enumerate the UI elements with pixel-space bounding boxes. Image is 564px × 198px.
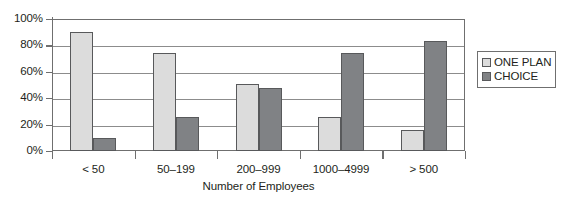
bar-one-plan-4	[401, 130, 424, 151]
bar-one-plan-1	[153, 53, 176, 151]
x-axis-category-label-0: < 50	[52, 163, 135, 175]
y-axis-label-0: 0%	[0, 145, 43, 157]
bar-choice-2	[259, 88, 282, 151]
x-tick-4	[382, 151, 383, 159]
bars-layer	[52, 19, 465, 151]
bar-choice-1	[176, 117, 199, 151]
x-tick-3	[300, 151, 301, 159]
y-axis-label-80: 80%	[0, 39, 43, 51]
bar-choice-0	[93, 138, 116, 151]
legend-item-one-plan[interactable]: ONE PLAN	[482, 55, 551, 69]
x-axis-category-label-3: 1000–4999	[300, 163, 383, 175]
y-axis-label-100: 100%	[0, 13, 43, 25]
legend-swatch-icon-one-plan	[482, 58, 491, 67]
legend: ONE PLAN CHOICE	[477, 51, 556, 88]
bar-choice-3	[341, 53, 364, 151]
legend-swatch-icon-choice	[482, 72, 491, 81]
bar-choice-4	[424, 41, 447, 151]
x-tick-5	[465, 151, 466, 159]
bar-one-plan-2	[236, 84, 259, 151]
bar-one-plan-0	[70, 32, 93, 151]
x-axis-title: Number of Employees	[52, 180, 465, 192]
legend-item-choice[interactable]: CHOICE	[482, 69, 551, 83]
legend-label-choice: CHOICE	[494, 70, 538, 82]
y-axis-label-20: 20%	[0, 119, 43, 131]
y-axis-label-60: 60%	[0, 66, 43, 78]
bar-chart: 100% 80% 60% 40% 20% 0% < 5050–199200–99…	[0, 0, 564, 198]
y-axis-label-40: 40%	[0, 92, 43, 104]
x-axis-category-label-2: 200–999	[217, 163, 300, 175]
x-tick-2	[217, 151, 218, 159]
bar-one-plan-3	[318, 117, 341, 151]
x-axis-category-label-1: 50–199	[135, 163, 218, 175]
x-axis-category-label-4: > 500	[382, 163, 465, 175]
x-tick-0	[52, 151, 53, 159]
x-tick-1	[135, 151, 136, 159]
legend-label-one-plan: ONE PLAN	[494, 56, 551, 68]
